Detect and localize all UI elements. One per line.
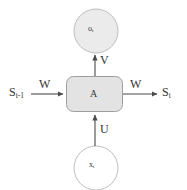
previous-state-symbol: S (9, 85, 16, 99)
input-node-circle (74, 146, 118, 190)
previous-state-label: St-1 (9, 86, 24, 98)
weight-label-u: U (100, 123, 109, 135)
weight-label-w-left: W (39, 78, 50, 90)
weight-label-w-right: W (130, 78, 141, 90)
input-node-subscript: t (93, 164, 94, 169)
previous-state-subscript: t-1 (16, 91, 24, 100)
cell-box-label: A (90, 89, 97, 99)
next-state-subscript: t (169, 91, 171, 100)
output-node-label: ot (88, 25, 93, 33)
output-node-circle (74, 9, 118, 53)
output-node-subscript: t (92, 28, 93, 33)
next-state-symbol: S (162, 85, 169, 99)
next-state-label: St (162, 86, 171, 98)
input-node-label: xt (89, 161, 94, 169)
diagram-canvas: St-1 St W W V U ot xt A (0, 0, 187, 190)
weight-label-v: V (100, 54, 109, 66)
